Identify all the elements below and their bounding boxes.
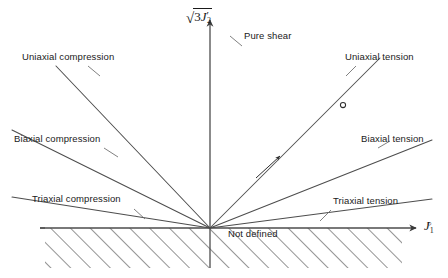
y-axis-label: √3J′2 [186, 9, 212, 26]
leader-uniaxial-compression [88, 66, 100, 76]
leader-pure-shear [230, 36, 242, 46]
leader-biaxial-compression [104, 148, 118, 157]
label-triaxial-compression: Triaxial compression [32, 194, 121, 204]
y-axis-symbol: J [201, 9, 207, 24]
ray-triaxial-tension [210, 199, 432, 228]
label-triaxial-tension: Triaxial tension [333, 196, 398, 206]
point-marker-icon [340, 102, 345, 107]
label-uniaxial-tension: Uniaxial tension [345, 52, 414, 62]
ray-biaxial-tension [210, 140, 432, 228]
label-not-defined: Not defined [228, 229, 278, 239]
x-axis-subscript: 1 [430, 226, 434, 235]
label-biaxial-compression: Biaxial compression [14, 134, 100, 144]
leader-triaxial-compression [134, 209, 145, 219]
label-pure-shear: Pure shear [244, 31, 291, 41]
stress-invariant-diagram: √3J′2 J○1 Uniaxial compression Biaxial c… [0, 0, 448, 278]
leader-triaxial-tension [320, 210, 331, 221]
hatched-region [45, 228, 402, 268]
ray-biaxial-compression [12, 130, 210, 228]
direction-arrow-icon [256, 156, 280, 178]
label-biaxial-tension: Biaxial tension [361, 134, 424, 144]
label-uniaxial-compression: Uniaxial compression [22, 52, 114, 62]
leader-uniaxial-tension [346, 66, 356, 76]
y-axis-subscript: 2 [207, 16, 211, 25]
leader-line-group [88, 36, 390, 221]
x-axis-label: J○1 [424, 218, 434, 235]
